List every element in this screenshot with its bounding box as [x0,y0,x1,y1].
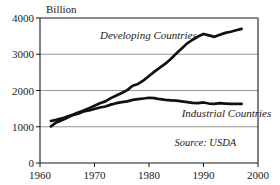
y-tick-label-3000: 3000 [12,48,35,60]
y-tick-label-4000: 4000 [12,12,35,24]
x-tick-label-1960: 1960 [29,169,52,181]
y-tick-label-1000: 1000 [12,121,35,133]
annotations-group: Source: USDA [174,137,236,148]
y-tick-label-0: 0 [29,157,35,169]
line-chart: 01000200030004000 19601970198019902000 D… [0,0,280,185]
x-tick-label-1970: 1970 [84,169,107,181]
y-tick-label-2000: 2000 [12,85,35,97]
series-label-developing: Developing Countries [99,29,197,41]
chart-container: 01000200030004000 19601970198019902000 D… [0,0,280,185]
x-tick-label-2000: 2000 [247,169,270,181]
y-axis-unit-label: Billion [46,3,77,15]
x-tick-label-1980: 1980 [138,169,161,181]
x-tick-label-1990: 1990 [193,169,216,181]
series-label-industrial: Industrial Countries [181,107,272,119]
source-note: Source: USDA [174,137,236,148]
